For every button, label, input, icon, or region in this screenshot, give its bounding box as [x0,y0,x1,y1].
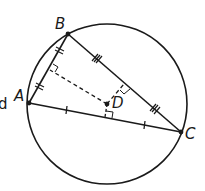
label-a: A [13,87,24,105]
point-c [179,130,184,135]
perp-bisector-ab [50,70,107,104]
right-angle-marker-ac [106,111,113,118]
label-b: B [55,15,65,33]
label-c: C [185,125,196,143]
side-ac [29,103,181,132]
right-angle-marker-ab [53,64,58,72]
point-a [27,101,32,106]
geometry-diagram: A B C D d [0,0,205,191]
point-b [66,32,71,37]
point-d [105,102,110,107]
clipped-text-fragment: d [0,95,8,113]
label-d: D [112,94,124,112]
